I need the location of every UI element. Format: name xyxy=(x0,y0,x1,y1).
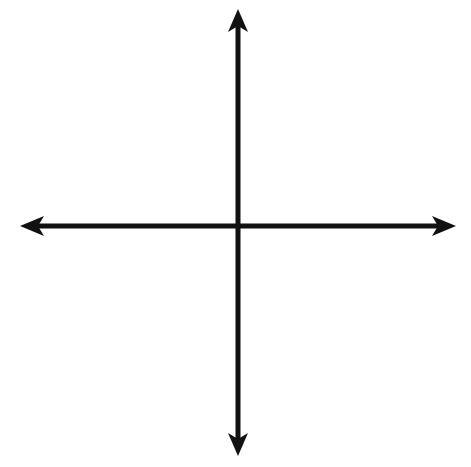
coordinate-plane xyxy=(0,0,471,467)
y-axis xyxy=(228,9,248,456)
